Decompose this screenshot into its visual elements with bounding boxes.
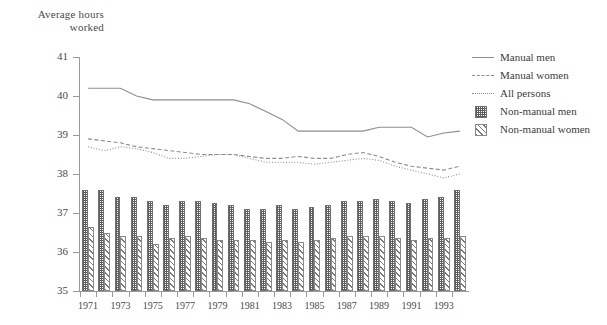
x-axis-tick [193,292,194,297]
y-axis-tick-label: 41 [40,50,68,62]
x-axis-tick-label: 1985 [297,300,331,311]
series-line-manual-women [88,139,460,170]
x-axis-tick [420,292,421,297]
x-axis-tick-label: 1989 [362,300,396,311]
y-axis-tick [73,252,79,253]
x-axis-tick [452,292,453,297]
legend-item-label: Manual men [500,50,555,65]
y-axis-tick [73,96,79,97]
y-axis-tick [73,135,79,136]
legend-item-label: Non-manual women [500,122,590,137]
y-axis-tick [73,174,79,175]
legend-item[interactable]: Non-manual women [472,122,602,138]
y-axis-tick [73,213,79,214]
legend-item-label: Manual women [500,68,569,83]
x-axis-tick [355,292,356,297]
hatched-swatch-icon [475,124,487,136]
legend-item[interactable]: Manual men [472,50,602,66]
x-axis-tick [209,292,210,297]
solid-line-icon [472,50,494,65]
checkered-swatch-icon [475,106,487,118]
y-axis-tick [73,291,79,292]
solid-line-icon [472,57,494,58]
legend-item[interactable]: Non-manual men [472,104,602,120]
x-axis-tick [274,292,275,297]
x-axis-tick [177,292,178,297]
x-axis-tick-label: 1975 [136,300,170,311]
y-axis-tick-label: 40 [40,89,68,101]
x-axis-tick [258,292,259,297]
y-axis-tick-label: 38 [40,167,68,179]
x-axis-tick [242,292,243,297]
chart-container: Average hours worked 35363738394041 1971… [0,0,607,325]
y-axis-title-line-1: Average hours [8,8,104,21]
x-axis-tick-label: 1971 [71,300,105,311]
x-axis-tick [112,292,113,297]
x-axis-tick [80,292,81,297]
plot-area [80,57,468,291]
x-axis-tick-label: 1973 [103,300,137,311]
line-series-layer [80,57,468,291]
x-axis-tick [306,292,307,297]
y-axis-title-line-2: worked [8,21,104,34]
y-axis-tick-label: 39 [40,128,68,140]
hatched-swatch-icon [472,122,494,137]
y-axis-title: Average hours worked [8,8,104,34]
x-axis-tick [323,292,324,297]
x-axis-tick-label: 1977 [168,300,202,311]
x-axis-tick [145,292,146,297]
x-axis-tick [129,292,130,297]
x-axis-tick [226,292,227,297]
dotted-line-icon [472,93,494,94]
legend-item-label: Non-manual men [500,104,577,119]
x-axis-tick [436,292,437,297]
y-axis-tick-label: 36 [40,245,68,257]
y-axis-tick-label: 37 [40,206,68,218]
x-axis-tick [339,292,340,297]
legend: Manual menManual womenAll personsNon-man… [472,50,602,140]
x-axis-tick-label: 1979 [200,300,234,311]
legend-item-label: All persons [500,86,550,101]
x-axis-tick [403,292,404,297]
x-axis-tick-label: 1993 [427,300,461,311]
x-axis-tick-label: 1983 [265,300,299,311]
x-axis-tick [161,292,162,297]
legend-item[interactable]: Manual women [472,68,602,84]
dotted-line-icon [472,86,494,101]
x-axis-tick [387,292,388,297]
x-axis-tick [371,292,372,297]
legend-item[interactable]: All persons [472,86,602,102]
x-axis-tick-label: 1981 [233,300,267,311]
y-axis-tick [73,57,79,58]
y-axis-tick-label: 35 [40,284,68,296]
x-axis-tick-label: 1987 [330,300,364,311]
x-axis-tick [96,292,97,297]
x-axis-tick-label: 1991 [394,300,428,311]
checkered-swatch-icon [472,104,494,119]
x-axis-tick [290,292,291,297]
series-line-all-persons [88,147,460,178]
dashed-line-icon [472,68,494,83]
series-line-manual-men [88,88,460,137]
dashed-line-icon [472,75,494,76]
